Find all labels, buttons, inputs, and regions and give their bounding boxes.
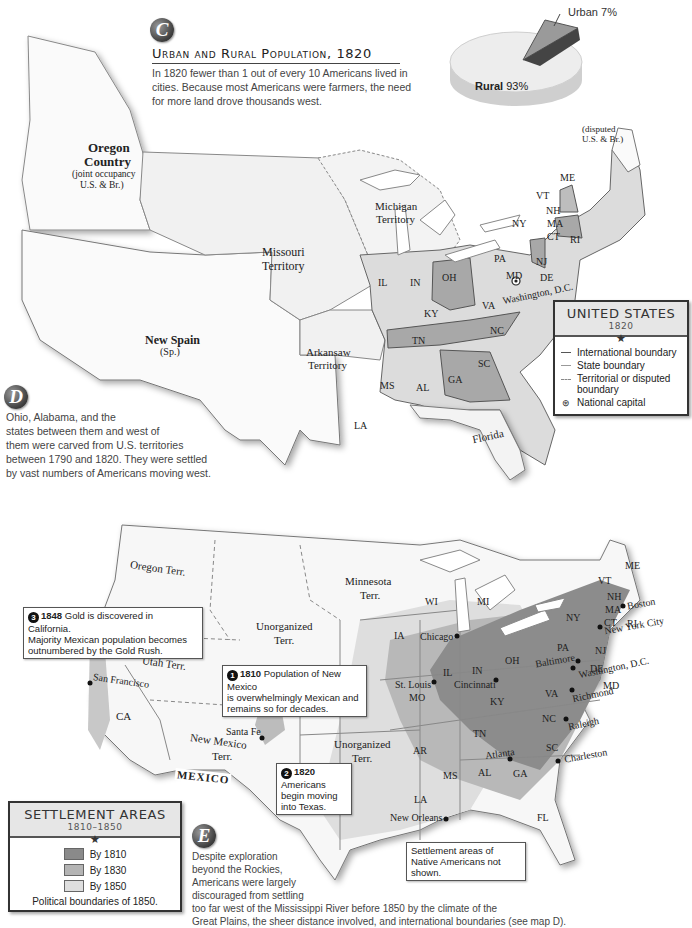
legend-item: By 1810 <box>90 849 127 860</box>
state-RI: RI <box>570 234 580 245</box>
legend-item: International boundary <box>577 347 677 358</box>
legend-united-states-1820: United States 1820 ★ International bound… <box>553 300 689 416</box>
state-IN: IN <box>410 277 421 288</box>
state-AL: AL <box>478 767 491 778</box>
label-country: Country <box>84 154 131 170</box>
state-LA: LA <box>354 420 367 431</box>
section-c-caption: In 1820 fewer than 1 out of every 10 Ame… <box>152 66 422 108</box>
caption-line: too far west of the Mississippi River be… <box>192 902 692 915</box>
swatch-1850 <box>64 880 84 892</box>
solid-line-icon <box>561 352 571 353</box>
state-VA: VA <box>545 688 558 699</box>
callout-number: 2 <box>281 768 292 779</box>
state-MS: MS <box>443 770 457 781</box>
state-NH: NH <box>546 205 560 216</box>
caption-line: Ohio, Alabama, and the <box>6 410 216 424</box>
star-icon: ★ <box>90 833 100 845</box>
state-MA: MA <box>605 604 621 615</box>
dashed-line-icon <box>561 379 571 380</box>
state-PA: PA <box>494 253 506 264</box>
legend-years: 1810–1850 <box>10 822 180 832</box>
state-TN: TN <box>412 335 425 346</box>
section-d-badge: D <box>4 385 28 409</box>
state-SC: SC <box>478 358 490 369</box>
state-PA: PA <box>557 642 569 653</box>
state-NJ: NJ <box>595 645 606 656</box>
label-minnesota-terr: Terr. <box>360 589 380 601</box>
state-VT: VT <box>598 575 611 586</box>
city-santa-fe: Santa Fe <box>226 726 261 737</box>
state-AL: AL <box>416 382 429 393</box>
state-MI: MI <box>477 596 489 607</box>
pie-label-urban: Urban 7% <box>568 6 617 18</box>
callout-texas: 21820 Americans begin moving into Texas. <box>276 763 352 815</box>
state-DE: DE <box>540 272 553 283</box>
state-GA: GA <box>513 768 527 779</box>
pie-label-rural-pct: 93% <box>506 80 528 92</box>
swatch-1810 <box>64 848 84 860</box>
label-unorganized-2b: Terr. <box>352 752 372 764</box>
state-NY: NY <box>512 218 526 229</box>
label-missouri-territory: Territory <box>262 259 304 274</box>
legend-title: United States <box>555 306 687 321</box>
label-ca: CA <box>116 710 131 722</box>
state-NH: NH <box>607 591 621 602</box>
legend-footer: Political boundaries of 1850. <box>32 896 158 907</box>
state-IL: IL <box>443 667 452 678</box>
thin-line-icon <box>561 365 571 366</box>
label-michigan: Michigan <box>375 200 417 212</box>
state-ME: ME <box>560 172 575 183</box>
callout-text: Americans <box>281 779 326 790</box>
callout-year: 1810 <box>240 668 261 679</box>
caption-line: between 1790 and 1820. They were settled <box>6 452 216 466</box>
state-TN: TN <box>473 728 486 739</box>
label-unorganized-1b: Terr. <box>274 634 294 646</box>
label-new-mexico-terr: Terr. <box>212 750 232 762</box>
caption-line: Despite exploration <box>192 850 692 863</box>
callout-text: begin moving <box>281 790 347 801</box>
state-MS: MS <box>380 380 394 391</box>
state-OH: OH <box>505 655 519 666</box>
caption-line: beyond the Rockies, <box>192 863 692 876</box>
state-VT: VT <box>536 190 549 201</box>
label-minnesota: Minnesota <box>345 575 391 587</box>
label-joint-occupancy: (joint occupancy <box>72 169 136 179</box>
caption-line: Americans were largely <box>192 876 692 889</box>
state-KY: KY <box>424 308 438 319</box>
state-NC: NC <box>490 325 504 336</box>
callout-text: into Texas. <box>281 801 347 812</box>
state-NJ: NJ <box>536 256 547 267</box>
state-AR: AR <box>413 745 427 756</box>
legend-item: Territorial or disputed boundary <box>577 373 683 395</box>
label-us-br: U.S. & Br.) <box>80 180 124 190</box>
state-MD: MD <box>506 270 522 281</box>
label-unorganized-2: Unorganized <box>334 738 391 750</box>
state-OH: OH <box>442 272 456 283</box>
pie-label-rural: Rural 93% <box>475 80 528 92</box>
caption-line: discouraged from settling <box>192 889 692 902</box>
state-NC: NC <box>542 713 556 724</box>
caption-line: Great Plains, the sheer distance involve… <box>192 915 692 928</box>
state-FL: FL <box>537 812 549 823</box>
state-LA: LA <box>414 794 427 805</box>
state-MO: MO <box>409 692 425 703</box>
legend-item: By 1850 <box>90 881 127 892</box>
state-NY: NY <box>566 612 580 623</box>
state-IN: IN <box>472 665 483 676</box>
label-unorganized-1: Unorganized <box>256 620 313 632</box>
state-KY: KY <box>490 696 504 707</box>
label-arkansaw-territory: Territory <box>308 359 347 371</box>
section-d-caption: Ohio, Alabama, and the states between th… <box>6 410 216 480</box>
state-MA: MA <box>547 218 563 229</box>
legend-item: State boundary <box>577 360 645 371</box>
state-CT: CT <box>547 231 560 242</box>
city-chicago: Chicago <box>420 631 453 642</box>
callout-text: remains so for decades. <box>227 703 362 714</box>
callout-year: 1820 <box>294 766 315 777</box>
section-c-badge: C <box>150 18 174 42</box>
legend-settlement-areas: Settlement Areas 1810–1850 ★ By 1810 By … <box>8 801 182 912</box>
section-e-badge: E <box>192 824 216 848</box>
callout-gold-rush: 31848 Gold is discovered in California. … <box>23 607 203 659</box>
caption-line: states between them and west of <box>6 424 216 438</box>
callout-text: is overwhelmingly Mexican and <box>227 692 362 703</box>
